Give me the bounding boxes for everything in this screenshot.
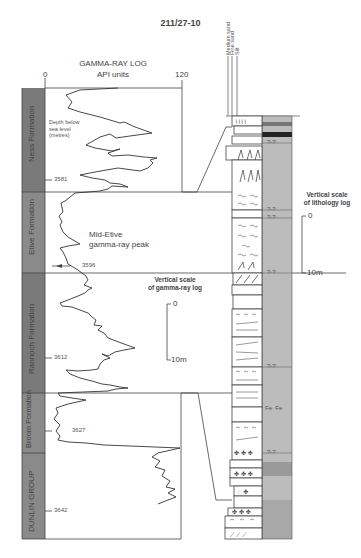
annotation-line: Mid-Etive [89,230,149,240]
depth-marker-3612: 3612 [54,354,67,360]
depth-marker-3596: 3596 [82,262,95,268]
uncertain-marker: ?-? [267,214,276,220]
depth-note-line: Depth below [49,119,80,126]
gamma-vertical-scale-title: Vertical scale of gamma-ray log [140,276,210,292]
scale-title-line: of gamma-ray log [140,284,210,292]
svg-text:⟋ ⟋ ⟋: ⟋ ⟋ ⟋ [230,531,247,538]
formation-label-broom: Broom Formation [24,394,33,448]
svg-text:⌇⌇⌇⌇: ⌇⌇⌇⌇ [235,118,247,125]
gamma-scale-top: 0 [173,299,177,308]
gamma-ray-curve [54,88,180,504]
formation-label-etive: Etive Formation [27,199,36,255]
depth-marker-3581: 3581 [54,176,67,182]
formation-label-dunlin: DUNLIN GROUP [27,471,36,532]
annotation-line: gamma-ray peak [89,240,149,250]
gamma-scale-bottom: 10m [171,355,187,364]
svg-text:♢ ✤: ♢ ✤ [236,488,248,495]
svg-text:✤ ✤ ✤: ✤ ✤ ✤ [234,470,253,477]
lithology-scale-bottom: 10m [307,268,323,277]
depth-note: Depth below sea level (metres) [49,119,80,139]
uncertain-marker: ?-? [267,269,276,275]
lithology-scale-top: 0 [308,211,312,220]
scale-title-line: Vertical scale [296,191,358,199]
uncertain-marker: ?-? [267,363,276,369]
uncertain-marker: ?-? [267,139,276,145]
uncertain-marker: ?-? [267,206,276,212]
formation-label-ness: Ness Formation [27,106,36,162]
scale-title-line: Vertical scale [140,276,210,284]
scale-title-line: of lithology log [296,199,358,207]
depth-note-line: (metres) [49,132,80,139]
coal-bed [262,132,292,137]
grain-label-silt: Silt [234,47,240,55]
svg-text:✤ ✤ ✤: ✤ ✤ ✤ [234,449,253,456]
depth-marker-3642: 3642 [54,507,67,513]
uncertain-marker: ?-? [267,449,276,455]
lithology-vertical-scale-title: Vertical scale of lithology log [296,191,358,207]
iron-label: Fe Fe [265,405,282,411]
svg-text:✤ ✤ ✤: ✤ ✤ ✤ [232,508,251,515]
depth-marker-3627: 3627 [72,427,85,433]
mid-etive-annotation: Mid-Etive gamma-ray peak [89,230,149,250]
formation-label-rannoch: Rannoch Formation [27,304,36,374]
